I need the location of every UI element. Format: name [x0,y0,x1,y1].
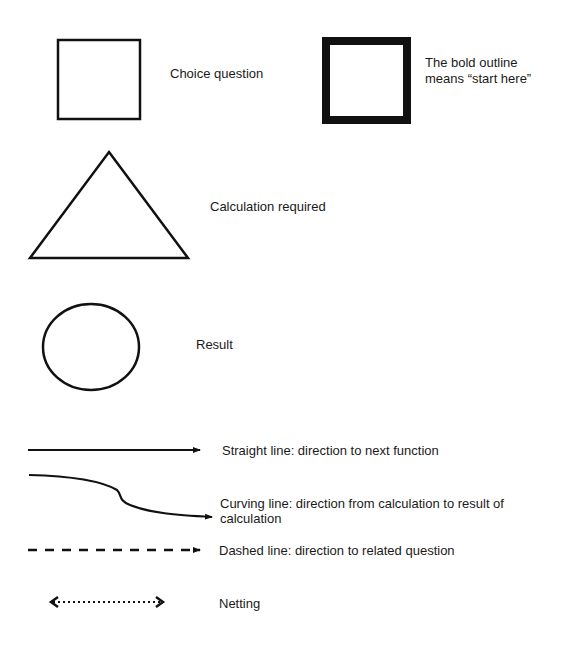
calculation-required-label: Calculation required [210,199,326,214]
curving-line-label-line2: calculation [220,511,281,526]
result-label: Result [196,337,233,352]
start-here-label-line1: The bold outline [425,55,518,70]
result-circle-icon [43,304,139,390]
calculation-triangle-icon [30,152,188,258]
start-here-bold-square-icon [326,41,407,120]
netting-label: Netting [219,596,260,611]
curving-line-label-line1: Curving line: direction from calculation… [220,496,504,511]
start-here-label-line2: means “start here” [425,71,531,86]
choice-question-label: Choice question [170,66,263,81]
straight-line-label: Straight line: direction to next functio… [222,443,439,458]
choice-question-square-icon [58,40,140,119]
dashed-line-label: Dashed line: direction to related questi… [219,543,455,558]
curving-arrow-icon [29,475,212,517]
